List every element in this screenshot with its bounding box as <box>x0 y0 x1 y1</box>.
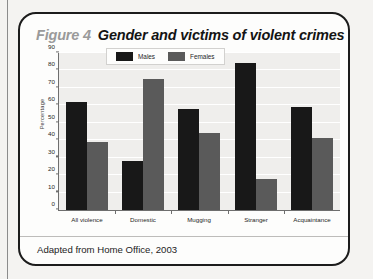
y-tick-label: 80 <box>48 60 55 67</box>
bar-females <box>143 79 164 210</box>
caption-divider <box>20 236 348 237</box>
y-tick-label: 70 <box>48 77 55 84</box>
y-tick-label: 20 <box>48 165 55 172</box>
x-tick-mark <box>284 210 285 214</box>
y-tick-label: 40 <box>48 130 55 137</box>
x-tick-mark <box>115 210 116 214</box>
y-tick-label: 30 <box>48 147 55 154</box>
figure-header: Figure 4Gender and victims of violent cr… <box>36 26 344 44</box>
bar-group <box>122 53 164 210</box>
bar-males <box>122 161 143 210</box>
figure-number: Figure 4 <box>36 27 91 43</box>
x-tick-label: Mugging <box>187 216 211 223</box>
legend-label: Females <box>190 53 215 60</box>
x-tick-label: All violence <box>71 216 102 223</box>
bar-males <box>178 109 199 210</box>
page-margin-rule <box>7 0 8 279</box>
x-tick-label: Domestic <box>130 216 156 223</box>
y-tick-label: 60 <box>48 95 55 102</box>
bar-males <box>235 63 256 210</box>
x-tick-label: Acquaintance <box>293 216 331 223</box>
x-tick-mark <box>171 210 172 214</box>
bar-males <box>66 102 87 210</box>
figure-card: Figure 4Gender and victims of violent cr… <box>18 12 350 266</box>
plot-region: 0102030405060708090 All violenceDomestic… <box>58 53 340 211</box>
y-tick-label: 10 <box>48 182 55 189</box>
legend-label: Males <box>138 53 155 60</box>
figure-title: Gender and victims of violent crimes <box>98 27 345 43</box>
x-tick-mark <box>228 210 229 214</box>
y-tick-label: 0 <box>52 200 55 207</box>
bar-group <box>178 53 220 210</box>
bar-females <box>256 179 277 210</box>
bar-females <box>199 133 220 210</box>
x-tick-label: Stranger <box>244 216 268 223</box>
bar-group <box>235 53 277 210</box>
chart-area: Percentage 0102030405060708090 All viole… <box>28 47 344 227</box>
legend-swatch-females <box>168 52 185 61</box>
legend-item: Females <box>168 52 215 61</box>
bar-group <box>291 53 333 210</box>
legend-swatch-males <box>116 52 133 61</box>
y-axis-label: Percentage <box>39 79 45 149</box>
bar-females <box>87 142 108 210</box>
bar-group <box>66 53 108 210</box>
chart-legend: MalesFemales <box>106 48 225 65</box>
bar-males <box>291 107 312 210</box>
bar-females <box>312 138 333 210</box>
y-tick-label: 90 <box>48 43 55 50</box>
figure-caption: Adapted from Home Office, 2003 <box>37 244 177 255</box>
y-tick-label: 50 <box>48 112 55 119</box>
bar-groups <box>59 53 340 210</box>
legend-item: Males <box>116 52 155 61</box>
